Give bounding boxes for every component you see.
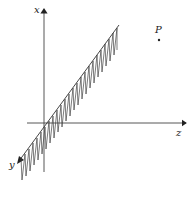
diagram-canvas xyxy=(0,0,193,199)
z-axis-label: z xyxy=(176,128,181,138)
point-p-label: P xyxy=(155,25,162,35)
point-p-dot xyxy=(158,39,160,41)
hatching xyxy=(21,28,117,180)
y-axis-arrow xyxy=(17,156,24,164)
coordinate-diagram: x z y P xyxy=(0,0,193,199)
x-axis-label: x xyxy=(34,5,40,15)
boundary-line xyxy=(19,25,119,161)
y-axis-label: y xyxy=(9,160,15,170)
